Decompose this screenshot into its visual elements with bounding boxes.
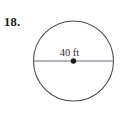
center-point-dot-icon: [71, 58, 76, 63]
circle-diagram: 40 ft: [0, 0, 120, 121]
geometry-figure: 18. 40 ft: [0, 0, 120, 121]
diameter-measurement-label: 40 ft: [60, 47, 80, 58]
